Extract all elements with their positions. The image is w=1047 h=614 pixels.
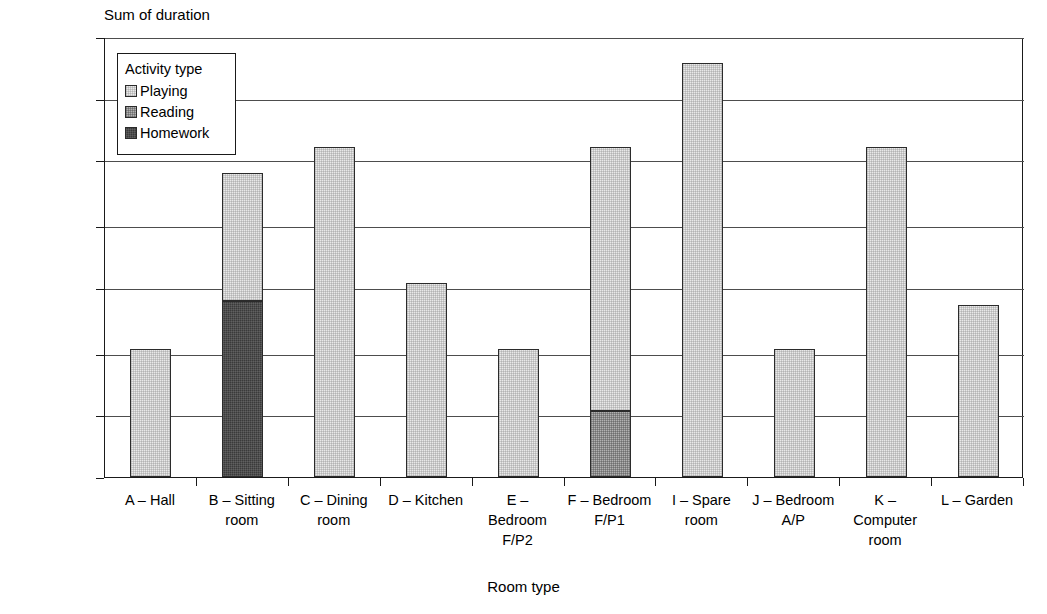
x-tick-label-line: J – Bedroom [747, 490, 839, 510]
bar-segment-playing[interactable] [774, 349, 815, 477]
y-tick-mark [96, 161, 104, 162]
legend-entry-label: Playing [140, 82, 188, 100]
x-tick-label: C – Diningroom [288, 490, 380, 530]
legend-entry[interactable]: Reading [125, 101, 235, 122]
x-tick-mark [747, 478, 748, 486]
playing-swatch [125, 85, 137, 97]
x-tick-label-line: E – [472, 490, 564, 510]
x-tick-label-line: room [839, 530, 931, 550]
bar-stack[interactable] [222, 173, 263, 477]
bar-segment-playing[interactable] [222, 173, 263, 301]
plot-right-border [1022, 38, 1023, 478]
x-tick-label: A – Hall [104, 490, 196, 510]
bar-segment-reading[interactable] [590, 411, 631, 477]
x-tick-label: I – Spareroom [655, 490, 747, 530]
x-axis-title: Room type [0, 578, 1047, 596]
x-tick-label: L – Garden [931, 490, 1023, 510]
y-tick-mark [96, 227, 104, 228]
x-tick-label-line: Bedroom [472, 510, 564, 530]
y-tick-mark [96, 416, 104, 417]
legend-entry[interactable]: Playing [125, 80, 235, 101]
y-tick-mark [96, 355, 104, 356]
bar-chart: Sum of duration 00:00:0000:00:1400:00:28… [0, 0, 1047, 614]
x-tick-mark [564, 478, 565, 486]
x-tick-label: B – Sittingroom [196, 490, 288, 530]
x-tick-mark [288, 478, 289, 486]
x-tick-label-line: F/P1 [564, 510, 656, 530]
bar-segment-playing[interactable] [406, 283, 447, 477]
gridline [105, 100, 1024, 101]
y-tick-mark [96, 38, 104, 39]
bar-segment-playing[interactable] [130, 349, 171, 477]
x-tick-mark [1023, 478, 1024, 486]
plot-area [104, 38, 1023, 478]
x-tick-label-line: room [655, 510, 747, 530]
x-tick-label: E –BedroomF/P2 [472, 490, 564, 550]
bar-segment-homework[interactable] [222, 301, 263, 477]
x-tick-label-line: F – Bedroom [564, 490, 656, 510]
x-tick-label-line: A/P [747, 510, 839, 530]
bar-segment-playing[interactable] [682, 63, 723, 477]
x-tick-mark [655, 478, 656, 486]
legend-entries: PlayingReadingHomework [125, 80, 235, 143]
reading-swatch [125, 106, 137, 118]
x-tick-label-line: K – [839, 490, 931, 510]
bar-segment-playing[interactable] [314, 147, 355, 477]
x-tick-label-line: Computer [839, 510, 931, 530]
x-tick-label-line: D – Kitchen [380, 490, 472, 510]
bar-stack[interactable] [774, 349, 815, 477]
x-tick-label: D – Kitchen [380, 490, 472, 510]
legend-entry-label: Homework [140, 124, 209, 142]
bar-stack[interactable] [866, 147, 907, 477]
bar-segment-playing[interactable] [958, 305, 999, 477]
x-tick-label: J – BedroomA/P [747, 490, 839, 530]
bar-segment-playing[interactable] [498, 349, 539, 477]
x-tick-label: F – BedroomF/P1 [564, 490, 656, 530]
x-tick-label-line: B – Sitting [196, 490, 288, 510]
x-tick-label-line: A – Hall [104, 490, 196, 510]
bar-stack[interactable] [406, 283, 447, 477]
x-tick-label: K –Computerroom [839, 490, 931, 550]
y-tick-mark [96, 478, 104, 479]
y-axis-title: Sum of duration [104, 6, 210, 24]
x-tick-mark [196, 478, 197, 486]
bar-stack[interactable] [682, 63, 723, 477]
legend-entry[interactable]: Homework [125, 122, 235, 143]
legend-entry-label: Reading [140, 103, 194, 121]
x-tick-label-line: I – Spare [655, 490, 747, 510]
x-tick-label-line: C – Dining [288, 490, 380, 510]
bar-segment-playing[interactable] [590, 147, 631, 411]
x-tick-label-line: room [288, 510, 380, 530]
gridline [105, 38, 1024, 39]
legend-title: Activity type [125, 59, 235, 80]
legend: Activity type PlayingReadingHomework [117, 53, 236, 155]
bar-stack[interactable] [498, 349, 539, 477]
bar-stack[interactable] [314, 147, 355, 477]
y-tick-mark [96, 100, 104, 101]
bar-segment-playing[interactable] [866, 147, 907, 477]
x-tick-mark [472, 478, 473, 486]
bar-stack[interactable] [958, 305, 999, 477]
x-tick-label-line: room [196, 510, 288, 530]
homework-swatch [125, 127, 137, 139]
bar-stack[interactable] [130, 349, 171, 477]
x-tick-mark [931, 478, 932, 486]
x-tick-mark [839, 478, 840, 486]
bar-stack[interactable] [590, 147, 631, 477]
x-tick-label-line: L – Garden [931, 490, 1023, 510]
y-tick-mark [96, 289, 104, 290]
x-tick-mark [380, 478, 381, 486]
x-tick-label-line: F/P2 [472, 530, 564, 550]
